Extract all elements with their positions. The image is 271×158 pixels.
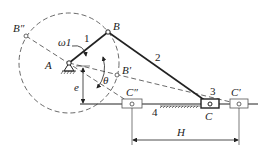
label-B-prime: B′ bbox=[122, 64, 132, 76]
dead-center-line-outer bbox=[69, 63, 239, 104]
label-H: H bbox=[176, 126, 186, 138]
label-C-prime: C′ bbox=[231, 86, 241, 98]
label-B: B bbox=[113, 20, 120, 32]
label-B-double-prime: B″ bbox=[13, 22, 25, 34]
ground-hatch bbox=[160, 106, 200, 108]
joint-B bbox=[106, 30, 110, 34]
joint-B-double-prime bbox=[24, 34, 28, 38]
label-link-4: 4 bbox=[152, 106, 158, 118]
label-A: A bbox=[44, 59, 52, 71]
label-omega1: ω1 bbox=[58, 36, 71, 48]
mechanism-diagram: B″ B B′ A ω1 θ e C″ C C′ H 1 2 3 4 bbox=[0, 0, 271, 158]
label-e: e bbox=[74, 81, 79, 93]
label-link-1: 1 bbox=[84, 32, 90, 44]
label-link-3: 3 bbox=[210, 85, 216, 97]
label-C-double-prime: C″ bbox=[126, 86, 138, 98]
pivot-A bbox=[61, 61, 76, 74]
label-C: C bbox=[205, 110, 213, 122]
label-theta: θ bbox=[103, 74, 109, 86]
joint-B-prime bbox=[115, 73, 119, 77]
label-link-2: 2 bbox=[155, 51, 161, 63]
